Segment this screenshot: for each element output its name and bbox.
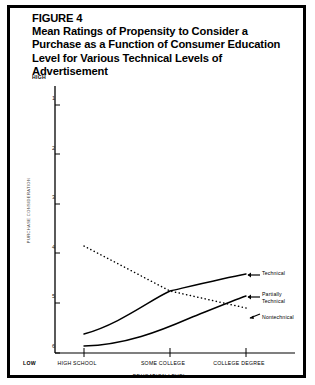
chart-svg — [10, 8, 306, 378]
series-line-technical — [84, 246, 246, 308]
y-axis-low-label: LOW — [23, 360, 36, 366]
series-line-partially-technical — [84, 274, 246, 334]
y-tick-label-2: 2 — [43, 145, 55, 151]
y-tick-label-3: 3 — [43, 194, 55, 200]
legend-partially-line2: Technical — [262, 298, 285, 304]
x-axis-title: EDUCATION LEVEL — [10, 373, 306, 378]
legend-arrow-technical — [248, 273, 261, 278]
y-tick-label-6: 6 — [43, 343, 55, 349]
figure-frame: FIGURE 4 Mean Ratings of Propensity to C… — [7, 5, 306, 378]
x-tick-label-some-college: SOME COLLEGE — [141, 360, 185, 366]
chart-plot-area: HIGH LOW PURCHASE CONSIDERATION EDUCATIO… — [10, 8, 306, 378]
series-line-nontechnical — [84, 296, 246, 346]
y-axis-high-label: HIGH — [32, 74, 46, 80]
legend-label-technical: Technical — [262, 270, 285, 277]
y-axis-title: PURCHASE CONSIDERATION — [26, 161, 31, 261]
legend-label-partially-technical: PartiallyTechnical — [262, 291, 285, 304]
y-tick-label-1: 1 — [43, 95, 55, 101]
y-tick-label-4: 4 — [43, 244, 55, 250]
legend-label-nontechnical: Nontechnical — [262, 314, 294, 321]
x-tick-label-college-degree: COLLEGE DEGREE — [213, 360, 264, 366]
x-tick-label-high-school: HIGH SCHOOL — [57, 360, 96, 366]
y-tick-label-5: 5 — [43, 293, 55, 299]
legend-partially-line1: Partially — [262, 291, 282, 297]
legend-arrow-nontechnical — [250, 314, 261, 319]
legend-arrow-partially-technical — [248, 295, 261, 300]
